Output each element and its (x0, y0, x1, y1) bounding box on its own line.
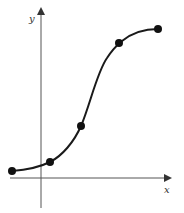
data-points (8, 25, 162, 175)
data-point-1 (8, 167, 16, 175)
data-point-5 (154, 25, 162, 33)
y-axis-label: y (28, 13, 35, 24)
sigmoid-curve (12, 29, 158, 171)
x-axis-label: x (164, 184, 170, 195)
data-point-3 (77, 122, 85, 130)
s-curve-diagram: y x (0, 0, 184, 213)
data-point-2 (46, 158, 54, 166)
data-point-4 (115, 39, 123, 47)
